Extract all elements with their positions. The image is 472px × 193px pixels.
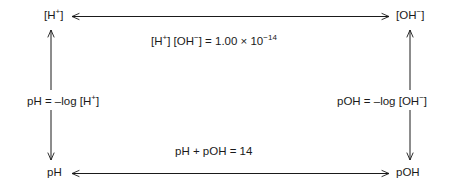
node-poh: pOH — [396, 167, 420, 179]
ph-def-part-2: ] — [96, 95, 99, 107]
ph-def-part-0: pH = –log [H — [27, 95, 91, 107]
ph-poh-relationship-diagram: [H+] [OH−] pH pOH [H+] [OH−] = 1.00 × 10… — [0, 0, 472, 193]
node-poh-base: pOH — [396, 166, 420, 178]
kw-part-4: ] = 1.00 × 10 — [199, 35, 264, 47]
node-h-plus-base: [H — [44, 9, 56, 21]
node-hydroxide-ion-concentration: [OH−] — [396, 10, 424, 22]
poh-def-part-2: ] — [424, 95, 427, 107]
sum-part-0: pH + pOH = 14 — [175, 145, 252, 157]
node-oh-minus-bracket: ] — [421, 9, 424, 21]
node-ph-base: pH — [47, 166, 62, 178]
node-hydrogen-ion-concentration: [H+] — [44, 10, 63, 22]
edge-label-ph-plus-poh-sum: pH + pOH = 14 — [172, 146, 255, 158]
kw-part-5: −14 — [263, 33, 277, 42]
node-ph: pH — [47, 167, 62, 179]
kw-part-2: ] [OH — [167, 35, 194, 47]
node-h-plus-bracket: ] — [60, 9, 63, 21]
edge-label-ph-definition: pH = –log [H+] — [24, 96, 102, 108]
kw-part-0: [H — [151, 35, 163, 47]
node-oh-minus-base: [OH — [396, 9, 416, 21]
edge-label-poh-definition: pOH = –log [OH−] — [334, 96, 430, 108]
edge-label-ion-product-constant: [H+] [OH−] = 1.00 × 10−14 — [148, 36, 280, 48]
poh-def-part-0: pOH = –log [OH — [337, 95, 419, 107]
